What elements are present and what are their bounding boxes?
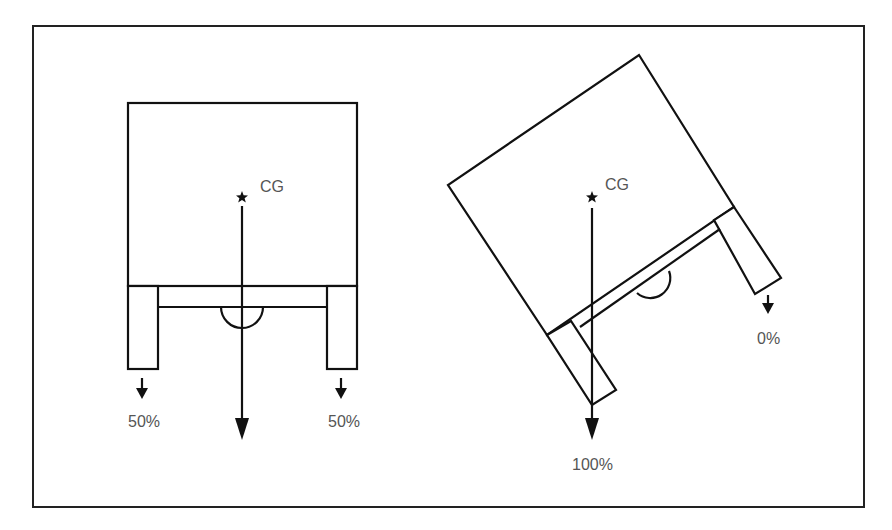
tilted-crossbar	[580, 229, 720, 327]
star-icon	[236, 191, 248, 203]
tilted-right-load-arrow	[762, 295, 774, 314]
upright-left-load-arrow	[136, 378, 148, 399]
tilted-right-load-label: 0%	[757, 330, 780, 347]
tilted-left-leg	[547, 321, 616, 405]
upright-diagram: CG 50% 50%	[128, 103, 360, 440]
tilted-diagram: CG 0% 100%	[448, 55, 781, 473]
upright-right-load-label: 50%	[328, 413, 360, 430]
upright-left-leg	[128, 286, 158, 369]
star-icon	[586, 191, 598, 203]
upright-right-leg	[327, 286, 357, 369]
upright-left-load-label: 50%	[128, 413, 160, 430]
upright-cg-label: CG	[260, 178, 284, 195]
tilted-weight-arrowhead	[585, 418, 599, 440]
diagram-figure: CG 50% 50% CG 0	[0, 0, 892, 530]
tilted-right-leg	[714, 207, 781, 294]
tilted-left-load-label: 100%	[572, 456, 613, 473]
upright-right-load-arrow	[335, 378, 347, 399]
tilted-cg-label: CG	[605, 176, 629, 193]
upright-weight-arrowhead	[235, 418, 249, 440]
